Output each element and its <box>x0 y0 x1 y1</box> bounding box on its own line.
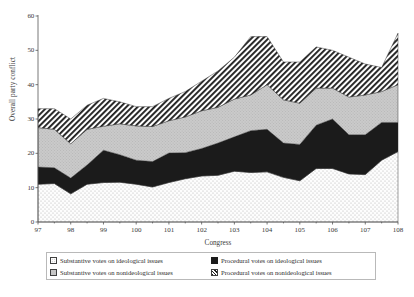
x-axis-tick-labels: 979899100101102103104105106107108 <box>38 226 398 238</box>
x-axis-title: Congress <box>38 239 398 247</box>
legend-label: Procedural votes on ideological issues <box>221 257 322 264</box>
x-tick-label: 97 <box>35 226 42 234</box>
legend-swatch-grey-stipple-icon <box>50 269 57 276</box>
legend-item-procedural-ideological: Procedural votes on ideological issues <box>211 254 372 266</box>
legend-label: Substantive votes on ideological issues <box>60 257 163 264</box>
chart-figure: 0102030405060 Overall party conflict <box>0 0 414 297</box>
x-tick-label: 101 <box>164 226 175 234</box>
x-tick-label: 102 <box>196 226 207 234</box>
legend-swatch-diagonal-hatch-icon <box>211 269 218 276</box>
x-tick-label: 107 <box>360 226 371 234</box>
x-tick-label: 103 <box>229 226 240 234</box>
x-tick-label: 100 <box>131 226 142 234</box>
legend-swatch-light-dotted-icon <box>50 257 57 264</box>
legend-swatch-solid-black-icon <box>211 257 218 264</box>
legend-item-substantive-nonideological: Substantive votes on nonideological issu… <box>50 266 211 278</box>
x-tick-label: 98 <box>67 226 74 234</box>
x-tick-label: 99 <box>100 226 107 234</box>
x-tick-label: 106 <box>327 226 338 234</box>
x-tick-label: 105 <box>295 226 306 234</box>
chart-legend: Substantive votes on ideological issues … <box>46 252 376 280</box>
legend-item-procedural-nonideological: Procedural votes on nonideological issue… <box>211 266 372 278</box>
x-tick-label: 108 <box>393 226 404 234</box>
x-tick-label: 104 <box>262 226 273 234</box>
legend-label: Procedural votes on nonideological issue… <box>221 269 332 276</box>
legend-label: Substantive votes on nonideological issu… <box>60 269 173 276</box>
legend-item-substantive-ideological: Substantive votes on ideological issues <box>50 254 211 266</box>
